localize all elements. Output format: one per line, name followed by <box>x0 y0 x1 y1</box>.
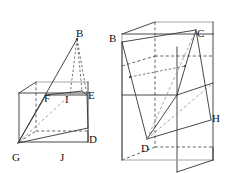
left-vertex-label-B: B <box>76 28 83 39</box>
right-plane-interior-point-2 <box>184 65 186 67</box>
left-inscribed-plane <box>18 91 88 143</box>
right-box-visible-edges <box>122 22 213 172</box>
left-vertex-label-E: E <box>88 90 95 101</box>
right-solid-group <box>122 22 213 172</box>
right-vertex-label-D: D <box>141 143 149 154</box>
right-plane-diagonal-D-C <box>147 30 196 139</box>
left-vertex-label-G: G <box>12 152 20 163</box>
right-box-hidden-bottom-left <box>122 147 155 160</box>
right-box-mid-front-right <box>177 83 213 95</box>
left-vertex-label-F: F <box>44 93 50 104</box>
geometry-figure-canvas: B F I E D G J B C H D <box>0 0 233 173</box>
left-ray-B-to-E <box>77 39 87 95</box>
geometry-drawing <box>0 0 233 173</box>
left-vertex-label-J: J <box>60 152 64 163</box>
left-box-top-left-diag <box>19 82 36 93</box>
left-apex-rays <box>18 38 87 143</box>
right-plane-diagonal-D-right <box>147 83 213 139</box>
right-plane-edge-H-D <box>147 120 211 139</box>
left-vertex-label-D: D <box>89 134 97 145</box>
left-box-visible-edges <box>19 82 88 142</box>
left-box-hidden-edges <box>19 82 88 142</box>
right-plane-edge-B-C <box>122 30 196 42</box>
right-box-hidden-edges <box>122 22 213 160</box>
left-ray-B-to-I <box>70 39 77 95</box>
left-ray-B-to-notch <box>77 39 82 91</box>
right-vertex-label-B: B <box>109 33 116 44</box>
right-box-top-left-diag <box>122 22 155 34</box>
right-plane-edge-D-B <box>122 42 147 139</box>
right-vertex-label-C: C <box>197 28 204 39</box>
right-vertex-label-H: H <box>212 113 220 124</box>
left-ray-G-to-B <box>18 39 77 143</box>
right-plane-inner-edge-C-mid <box>177 30 196 95</box>
right-box-bottom-inner-diag <box>177 160 213 172</box>
left-vertex-label-I: I <box>65 94 69 105</box>
left-solid-group <box>18 38 88 143</box>
right-plane-edge-C-H <box>196 30 211 120</box>
right-plane-interior-point <box>129 76 131 78</box>
